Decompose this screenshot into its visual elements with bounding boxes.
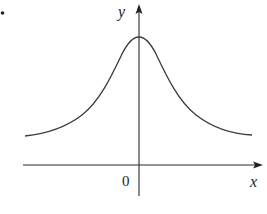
graph-figure: y x 0 [0,0,267,214]
bullet-dot [1,11,5,15]
origin-label: 0 [122,173,130,189]
x-axis-label: x [249,173,257,190]
y-axis-label: y [116,3,126,21]
